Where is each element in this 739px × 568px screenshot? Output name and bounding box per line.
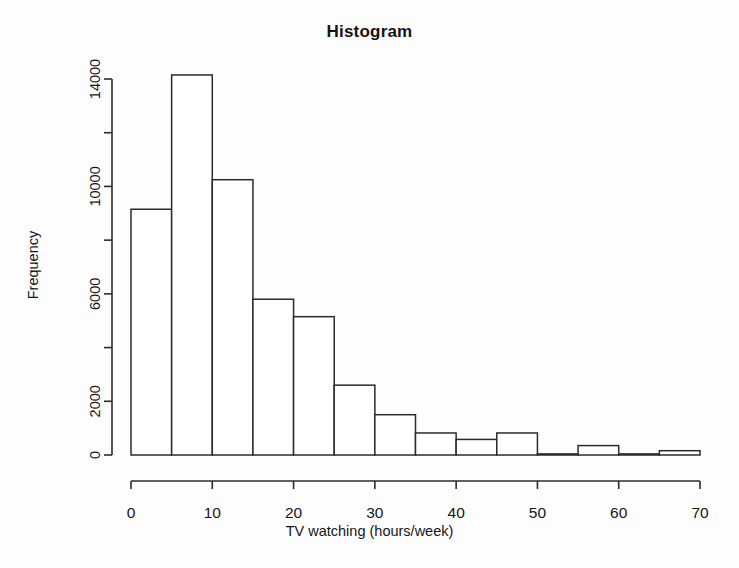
histogram-bar xyxy=(334,385,375,455)
histogram-bar xyxy=(578,446,619,455)
histogram-bar xyxy=(131,209,172,455)
y-tick-label: 6000 xyxy=(87,278,103,310)
histogram-bar xyxy=(659,451,700,455)
y-tick-label: 10000 xyxy=(87,166,103,206)
x-tick-label: 60 xyxy=(610,504,628,521)
x-tick-label: 70 xyxy=(691,504,709,521)
y-axis: 0200060001000014000 xyxy=(87,59,112,459)
x-tick-label: 0 xyxy=(127,504,136,521)
histogram-bar xyxy=(456,439,497,455)
x-axis: 010203040506070 xyxy=(127,481,709,521)
histogram-bar xyxy=(212,180,253,455)
y-tick-label: 2000 xyxy=(87,385,103,417)
histogram-bar xyxy=(497,433,538,455)
x-axis-label: TV watching (hours/week) xyxy=(0,523,739,539)
histogram-bar xyxy=(253,299,294,455)
y-tick-label: 0 xyxy=(87,451,103,459)
histogram-plot: Histogram 0200060001000014000 0102030405… xyxy=(0,0,739,568)
x-tick-label: 40 xyxy=(448,504,466,521)
plot-canvas: 0200060001000014000 010203040506070 xyxy=(0,0,739,568)
y-tick-label: 14000 xyxy=(87,59,103,99)
bars-group xyxy=(131,75,700,455)
x-tick-label: 20 xyxy=(285,504,303,521)
histogram-bar xyxy=(172,75,213,455)
x-tick-label: 30 xyxy=(366,504,384,521)
histogram-bar xyxy=(619,454,660,455)
histogram-bar xyxy=(416,433,457,455)
y-axis-label: Frequency xyxy=(25,185,41,345)
histogram-bar xyxy=(375,415,416,455)
x-tick-label: 50 xyxy=(529,504,547,521)
histogram-bar xyxy=(294,317,335,455)
x-tick-label: 10 xyxy=(204,504,222,521)
histogram-bar xyxy=(537,454,578,455)
